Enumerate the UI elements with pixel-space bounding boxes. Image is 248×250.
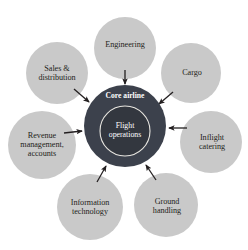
node-circle-engineering[interactable] [94, 17, 156, 79]
node-circle-ground-handling[interactable] [134, 173, 198, 237]
node-circle-inflight-catering[interactable] [180, 111, 242, 173]
node-circle-revenue-management-accounts[interactable] [8, 111, 76, 179]
core-title-label: Core airline [106, 92, 145, 100]
core-inner-label: Flight operations [109, 122, 141, 140]
node-circle-information-technology[interactable] [57, 174, 123, 240]
hub-spoke-diagram: EngineeringCargoInflight cateringGround … [0, 0, 248, 250]
arrow-cargo-to-core [159, 92, 173, 104]
node-circle-sales-distribution[interactable] [26, 42, 88, 104]
